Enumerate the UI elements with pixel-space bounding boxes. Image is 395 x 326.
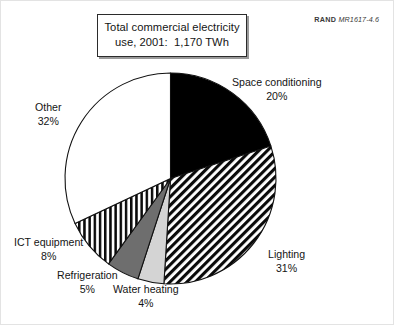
- pie-slice-group: [65, 73, 276, 284]
- slice-label-name: Space conditioning: [232, 76, 322, 90]
- slice-label-name: Other: [35, 101, 62, 115]
- slice-label-name: Lighting: [268, 248, 305, 262]
- slice-label-percent: 5%: [57, 283, 118, 297]
- slice-label-percent: 8%: [14, 250, 83, 264]
- slice-label-percent: 31%: [268, 262, 305, 276]
- slice-label-percent: 32%: [35, 115, 62, 129]
- slice-label-name: ICT equipment: [14, 236, 83, 250]
- slice-label-refrigeration: Refrigeration 5%: [57, 269, 118, 296]
- slice-label-name: Water heating: [113, 283, 179, 297]
- slice-label-percent: 4%: [113, 297, 179, 311]
- slice-label-name: Refrigeration: [57, 269, 118, 283]
- slice-label-ict-equipment: ICT equipment 8%: [14, 236, 83, 263]
- slice-label-other: Other 32%: [35, 101, 62, 128]
- slice-label-percent: 20%: [232, 90, 322, 104]
- slice-label-lighting: Lighting 31%: [268, 248, 305, 275]
- slice-label-water-heating: Water heating 4%: [113, 283, 179, 310]
- slice-label-space-conditioning: Space conditioning 20%: [232, 76, 322, 103]
